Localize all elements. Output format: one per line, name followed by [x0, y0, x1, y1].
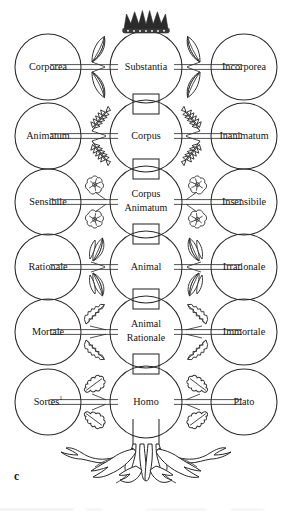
pointed-leaf-icon	[185, 37, 203, 98]
node-label-left: Corporea	[29, 61, 67, 72]
tree-row-3: Corpus Animatum Sensibile Insensibile	[15, 166, 277, 238]
fern-leaf-icon	[181, 106, 201, 165]
fern-leaf-icon	[91, 106, 111, 165]
tree-row-1: Substantia Corporea Incorporea	[15, 11, 277, 103]
tree-row-5: Animal Rationale Mortale Immortale	[15, 296, 277, 368]
serrated-leaf-icon	[84, 304, 106, 359]
node-label-left: Mortale	[32, 326, 65, 337]
branches	[50, 65, 242, 405]
oak-leaf-icon	[186, 374, 210, 429]
tree-row-2: Corpus Animatum Inanimatum	[15, 100, 277, 172]
trunk-segment-icon	[133, 289, 159, 309]
oak-leaf-icon	[83, 374, 107, 429]
page-edge-artifact	[0, 508, 292, 511]
trunk-segment-icon	[133, 354, 159, 374]
node-label-right: Incorporea	[222, 61, 267, 72]
node-label-center-line2: Animatum	[125, 202, 168, 213]
node-label-center-line1: Corpus	[132, 188, 161, 199]
trunk-segment-icon	[133, 94, 159, 114]
tree-row-4: Animal Rationale Irrationale	[15, 231, 277, 303]
double-leaf-icon	[187, 238, 202, 296]
node-label-right: Plato	[234, 396, 255, 407]
trunk-to-roots	[133, 419, 159, 444]
node-label-center: Homo	[133, 396, 158, 407]
node-label-center-line2: Rationale	[127, 332, 166, 343]
node-label-center-line1: Animal	[131, 318, 161, 329]
serrated-leaf-icon	[186, 304, 208, 359]
node-label-right: Inanimatum	[219, 130, 268, 141]
node-label-center: Corpus	[131, 130, 160, 141]
pointed-leaf-icon	[89, 37, 107, 98]
blossom-flower-icon	[186, 176, 207, 228]
node-label-center: Substantia	[125, 61, 168, 72]
node-label-right: Irrationale	[223, 261, 266, 272]
double-leaf-icon	[90, 238, 105, 296]
node-label-left: Animatum	[26, 130, 70, 141]
node-label-right: Insensibile	[222, 196, 267, 207]
trunk-segment-icon	[133, 159, 159, 179]
node-label-left: Sortes1	[34, 394, 63, 407]
crown-icon	[123, 11, 170, 33]
node-label-left: Sensibile	[29, 196, 67, 207]
footnote-marker: 1	[59, 394, 62, 401]
tree-row-6: Homo Sortes1 Plato	[15, 366, 277, 438]
porphyry-tree-figure: Substantia Corporea Incorporea Corpus An…	[0, 0, 292, 513]
blossom-flower-icon	[85, 176, 106, 228]
node-label-center: Animal	[131, 261, 162, 272]
node-label-left-text: Sortes	[34, 396, 60, 407]
node-label-right: Immortale	[223, 326, 266, 337]
tree-diagram-canvas: Substantia Corporea Incorporea Corpus An…	[0, 0, 292, 513]
tree-roots-icon	[61, 444, 231, 483]
node-label-left: Rationale	[28, 261, 68, 272]
trunk-segment-icon	[133, 224, 159, 244]
figure-caption: c	[14, 470, 19, 482]
